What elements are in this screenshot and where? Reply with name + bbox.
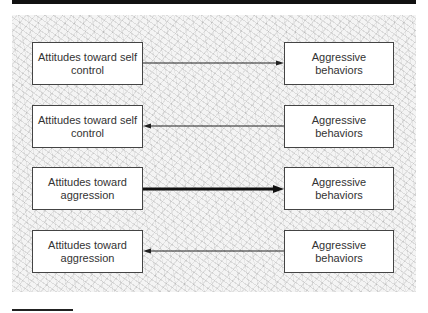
footnote-rule (12, 309, 73, 311)
box-aggressive-behaviors-4: Aggressive behaviors (284, 230, 394, 273)
box-label: Attitudes toward self control (37, 51, 138, 77)
box-label: Aggressive behaviors (289, 51, 389, 77)
box-attitudes-aggression-1: Attitudes toward aggression (32, 167, 143, 210)
arrow-left-icon (143, 246, 284, 256)
box-aggressive-behaviors-3: Aggressive behaviors (284, 167, 394, 210)
arrow-right-icon (143, 58, 284, 68)
thick-arrow-right-icon (143, 183, 284, 195)
box-aggressive-behaviors-2: Aggressive behaviors (284, 105, 394, 148)
top-rule (12, 0, 416, 4)
box-label: Aggressive behaviors (289, 239, 389, 265)
arrow-left-icon (143, 121, 284, 131)
box-label: Attitudes toward aggression (37, 239, 138, 265)
box-attitudes-self-control-1: Attitudes toward self control (32, 42, 143, 85)
box-attitudes-aggression-2: Attitudes toward aggression (32, 230, 143, 273)
box-attitudes-self-control-2: Attitudes toward self control (32, 105, 143, 148)
box-label: Aggressive behaviors (289, 114, 389, 140)
box-aggressive-behaviors-1: Aggressive behaviors (284, 42, 394, 85)
box-label: Attitudes toward aggression (37, 176, 138, 202)
box-label: Aggressive behaviors (289, 176, 389, 202)
box-label: Attitudes toward self control (37, 114, 138, 140)
